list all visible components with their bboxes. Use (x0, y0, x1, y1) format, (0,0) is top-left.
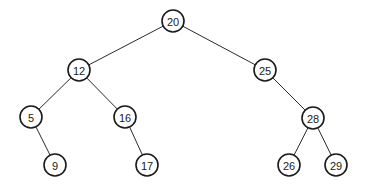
tree-node-25: 25 (254, 59, 276, 81)
tree-node-17: 17 (136, 154, 158, 176)
edge-16-17 (130, 127, 143, 155)
edge-20-25 (183, 26, 256, 65)
edge-12-5 (39, 78, 71, 110)
binary-tree-diagram: 201225516289172629 (0, 0, 369, 191)
tree-node-29: 29 (325, 154, 347, 176)
node-label: 9 (52, 160, 58, 172)
node-label: 26 (283, 160, 295, 172)
edge-28-29 (318, 128, 331, 155)
tree-node-20: 20 (162, 10, 184, 32)
tree-node-5: 5 (20, 106, 42, 128)
edge-12-16 (87, 78, 118, 109)
node-label: 12 (73, 65, 85, 77)
node-label: 28 (307, 113, 319, 125)
node-label: 5 (28, 112, 34, 124)
edge-25-28 (273, 78, 305, 110)
tree-node-28: 28 (302, 107, 324, 129)
tree-node-12: 12 (68, 59, 90, 81)
tree-node-16: 16 (114, 106, 136, 128)
tree-node-26: 26 (278, 154, 300, 176)
tree-nodes: 201225516289172629 (20, 10, 347, 176)
node-label: 17 (141, 160, 153, 172)
node-label: 29 (330, 160, 342, 172)
tree-node-9: 9 (44, 154, 66, 176)
edge-28-26 (294, 128, 308, 155)
node-label: 20 (167, 16, 179, 28)
node-label: 25 (259, 65, 271, 77)
tree-edges (36, 26, 331, 155)
edge-5-9 (36, 127, 50, 155)
edge-20-12 (89, 26, 163, 65)
node-label: 16 (119, 112, 131, 124)
